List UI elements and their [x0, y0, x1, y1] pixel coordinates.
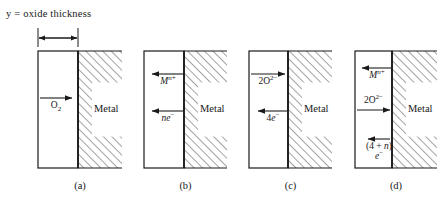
- panel-caption-a: (a): [60, 180, 100, 191]
- flux-label-b-metal-cation: Mn+: [146, 77, 190, 87]
- metal-label-d: Metal: [408, 103, 433, 114]
- metal-label-b: Metal: [200, 103, 225, 114]
- panel-caption-b: (b): [166, 180, 206, 191]
- panel-caption-c: (c): [271, 180, 311, 191]
- flux-label-c-oxide-anion: 2O2−: [246, 77, 290, 87]
- flux-label-d-oxide-anion: 2O2−: [352, 96, 396, 106]
- metal-label-c: Metal: [304, 103, 329, 114]
- flux-label-d-electrons: (4 + n)e−: [357, 142, 401, 162]
- flux-label-d-metal-cation: Mn+: [355, 71, 399, 81]
- flux-label-c-electrons: 4e−: [251, 114, 295, 124]
- flux-label-b-electrons: ne−: [146, 114, 190, 124]
- metal-label-a: Metal: [94, 103, 119, 114]
- flux-label-a-oxygen-gas: O2: [34, 101, 78, 111]
- figure-title: y = oxide thickness: [6, 8, 91, 19]
- panel-caption-d: (d): [376, 180, 416, 191]
